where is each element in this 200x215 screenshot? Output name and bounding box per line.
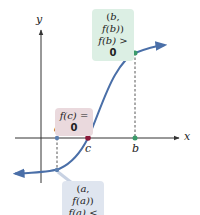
callout-b-line2: f(b) > 0 [96, 35, 130, 59]
callout-b-line1: (b, f(b)) [96, 11, 130, 35]
callout-a-line1: (a, f(a)) [66, 183, 100, 207]
point-b-label: b [132, 142, 139, 155]
point-a-curve [55, 168, 59, 172]
callout-point-a: (a, f(a)) f(a) < 0 [62, 181, 104, 215]
callout-point-c: f(c) = 0 [55, 108, 93, 136]
y-axis-label: y [36, 13, 42, 26]
point-c [85, 135, 91, 141]
point-b-axis [133, 136, 138, 141]
callout-a-line2: f(a) < 0 [66, 207, 100, 215]
callout-point-b: (b, f(b)) f(b) > 0 [92, 9, 134, 61]
point-c-label: c [85, 142, 91, 155]
point-a-axis [55, 136, 59, 140]
x-axis-label: x [184, 130, 190, 143]
